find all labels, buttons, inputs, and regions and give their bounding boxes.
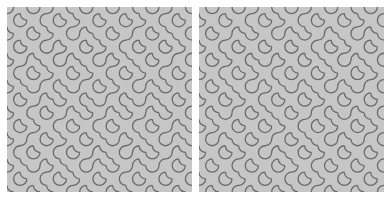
truchet-pattern-right	[199, 7, 384, 192]
truchet-tiles-left	[7, 7, 192, 192]
truchet-pattern-left	[7, 7, 192, 192]
truchet-arcs	[199, 7, 384, 192]
truchet-tiles-right	[199, 7, 384, 192]
pattern-canvas	[0, 0, 390, 201]
truchet-arcs	[7, 7, 192, 192]
